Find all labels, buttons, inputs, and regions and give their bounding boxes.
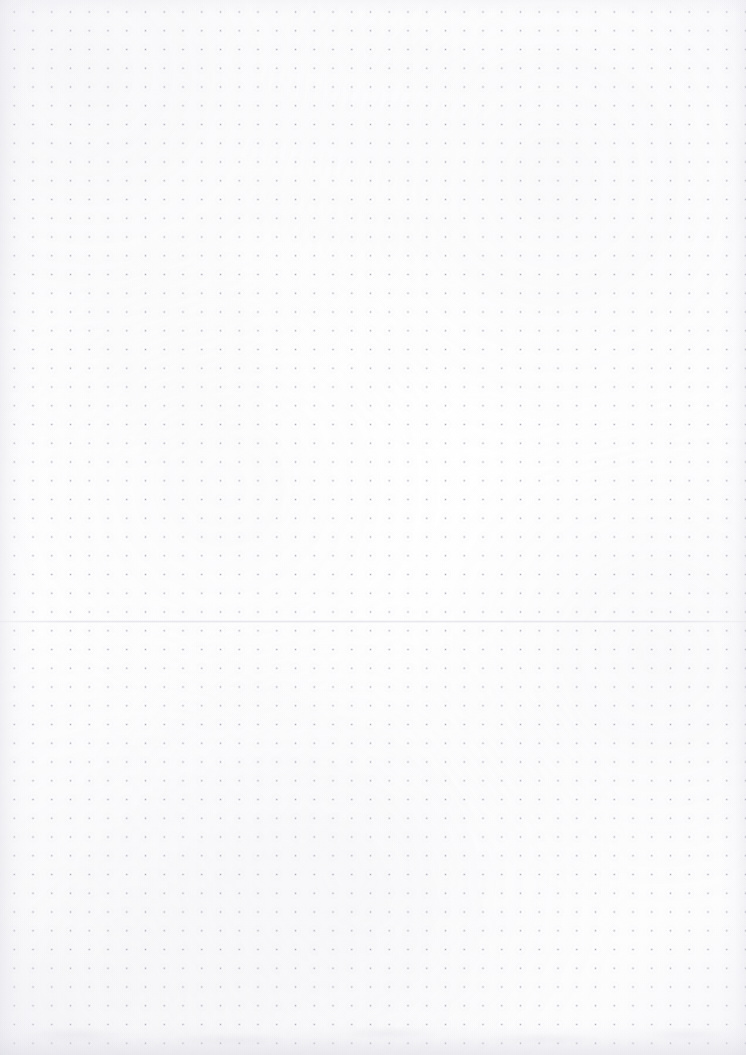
notebook-page	[0, 0, 746, 1055]
corner-vignette	[0, 0, 746, 1055]
